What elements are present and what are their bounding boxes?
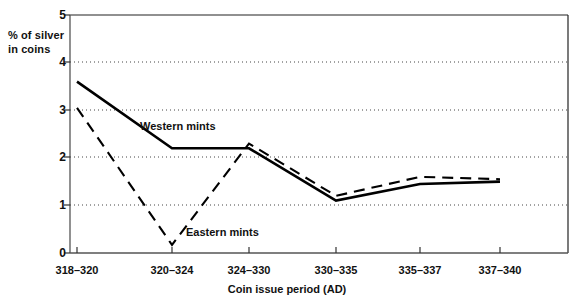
y-tick-label-2: 2 xyxy=(48,150,66,164)
y-tick-label-4: 4 xyxy=(48,55,66,69)
x-tick-label-1: 320–324 xyxy=(132,264,212,276)
x-tick-label-0: 318–320 xyxy=(37,264,117,276)
x-tick-label-3: 330–335 xyxy=(296,264,376,276)
series-line-western-mints xyxy=(77,82,500,201)
x-tick-label-2: 324–330 xyxy=(209,264,289,276)
x-tick-label-5: 337–340 xyxy=(460,264,540,276)
chart-figure: % of silver in coins Coin issue period (… xyxy=(0,0,574,303)
chart-plot-svg xyxy=(0,0,574,303)
series-label-western-mints: Western mints xyxy=(140,120,216,132)
series-label-eastern-mints: Eastern mints xyxy=(186,226,259,238)
x-axis-title: Coin issue period (AD) xyxy=(0,283,574,295)
y-tick-label-1: 1 xyxy=(48,198,66,212)
y-tick-label-0: 0 xyxy=(48,246,66,260)
y-tick-label-5: 5 xyxy=(48,8,66,22)
y-axis-label: % of silver in coins xyxy=(8,28,64,56)
x-tick-label-4: 335–337 xyxy=(380,264,460,276)
y-tick-label-3: 3 xyxy=(48,103,66,117)
